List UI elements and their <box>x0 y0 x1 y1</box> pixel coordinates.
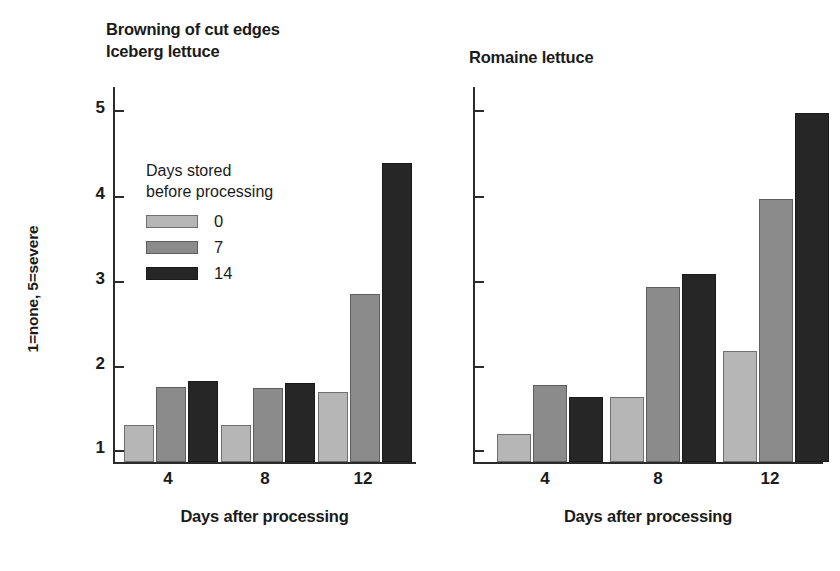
chart-title-line-1: Browning of cut edges <box>106 18 280 40</box>
bar-12d-stored14 <box>382 163 412 462</box>
bar-8d-stored7 <box>646 287 680 462</box>
bar-4d-stored7 <box>156 387 186 462</box>
legend-entries: 0 7 14 <box>146 208 273 286</box>
legend: Days stored before processing 0 7 14 <box>146 160 273 286</box>
figure-browning-of-cut-edges: Browning of cut edges Iceberg lettuce 1=… <box>0 0 840 571</box>
legend-item-0: 0 <box>146 208 273 234</box>
panel-iceberg-lettuce: Browning of cut edges Iceberg lettuce 1=… <box>0 0 430 571</box>
x-tick-label-4: 4 <box>163 469 172 489</box>
x-tick-label-8: 8 <box>260 469 269 489</box>
x-tick-label-12: 12 <box>354 469 373 489</box>
x-axis-line <box>473 462 823 464</box>
x-axis-line <box>113 462 416 464</box>
x-tick-label-12: 12 <box>761 469 780 489</box>
legend-item-14: 14 <box>146 260 273 286</box>
bar-12d-stored0 <box>723 351 757 462</box>
chart-title-line-2: Iceberg lettuce <box>106 40 280 62</box>
x-axis-title-romaine: Days after processing <box>473 507 823 526</box>
bars-romaine <box>475 87 823 462</box>
bar-12d-stored7 <box>350 294 380 462</box>
bar-4d-stored14 <box>569 397 603 462</box>
bar-4d-stored14 <box>188 381 218 462</box>
legend-label-7: 7 <box>214 239 223 256</box>
bar-12d-stored14 <box>795 113 829 462</box>
legend-swatch-7-icon <box>146 241 198 254</box>
panel-romaine-lettuce: Romaine lettuce 4 8 12 Days after proces… <box>430 0 840 571</box>
bar-12d-stored0 <box>318 392 348 462</box>
legend-title: Days stored before processing <box>146 160 273 202</box>
legend-swatch-0-icon <box>146 215 198 228</box>
legend-label-0: 0 <box>214 213 223 230</box>
legend-title-line-2: before processing <box>146 181 273 202</box>
bar-4d-stored0 <box>497 434 531 462</box>
bar-4d-stored7 <box>533 385 567 462</box>
bar-8d-stored0 <box>221 425 251 463</box>
x-tick-label-4: 4 <box>540 469 549 489</box>
bar-8d-stored0 <box>610 397 644 462</box>
plot-area-romaine: 4 8 12 Days after processing <box>473 87 823 464</box>
chart-title-romaine: Romaine lettuce <box>469 46 593 68</box>
bar-12d-stored7 <box>759 199 793 462</box>
x-axis-title-iceberg: Days after processing <box>113 507 416 526</box>
chart-title-iceberg: Browning of cut edges Iceberg lettuce <box>106 18 280 63</box>
y-axis-label: 1=none, 5=severe <box>24 139 42 439</box>
bar-8d-stored7 <box>253 388 283 462</box>
legend-swatch-14-icon <box>146 267 198 280</box>
legend-item-7: 7 <box>146 234 273 260</box>
legend-title-line-1: Days stored <box>146 160 273 181</box>
legend-label-14: 14 <box>214 265 232 282</box>
x-tick-label-8: 8 <box>653 469 662 489</box>
bar-4d-stored0 <box>124 425 154 463</box>
bar-8d-stored14 <box>285 383 315 462</box>
chart-title-line-1: Romaine lettuce <box>469 46 593 68</box>
bar-8d-stored14 <box>682 274 716 462</box>
